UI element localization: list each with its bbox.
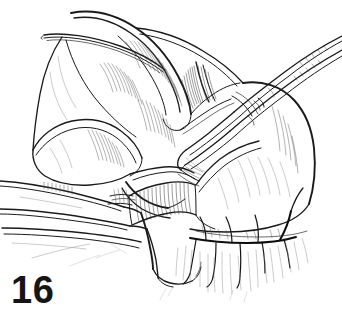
figure-container: 16 <box>0 0 342 322</box>
figure-number: 16 <box>11 271 54 309</box>
